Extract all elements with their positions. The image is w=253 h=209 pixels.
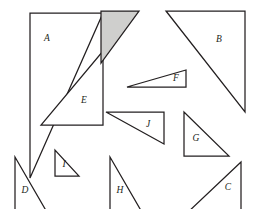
triangle-h: H: [110, 157, 143, 209]
triangle-label-d: D: [21, 185, 29, 195]
triangle-c: C: [186, 162, 241, 209]
triangle-label-h: H: [116, 185, 125, 195]
triangle-i-shape: [55, 150, 79, 176]
triangle-label-c: C: [225, 182, 232, 192]
triangle-label-g: G: [193, 133, 200, 143]
triangle-j: J: [106, 112, 164, 144]
triangle-f: F: [127, 70, 186, 87]
triangle-worksheet-canvas: AEBFJGIDHC: [0, 0, 253, 209]
triangle-j-shape: [106, 112, 164, 144]
triangle-label-e: E: [80, 95, 87, 105]
triangle-label-f: F: [172, 73, 179, 83]
triangle-c-shape: [186, 162, 241, 209]
triangle-h-shape: [110, 157, 143, 209]
triangle-label-a: A: [43, 33, 50, 43]
triangle-b-shape: [166, 11, 245, 112]
triangle-shaded-shape: [101, 11, 139, 63]
triangle-shaded: [101, 11, 139, 63]
triangle-b: B: [166, 11, 245, 112]
triangle-label-b: B: [216, 34, 222, 44]
triangle-g-shape: [184, 112, 229, 156]
triangle-g: G: [184, 112, 229, 156]
triangle-group: AEBFJGIDHC: [15, 11, 245, 209]
triangle-figure: AEBFJGIDHC: [0, 0, 253, 209]
triangle-i: I: [55, 150, 79, 176]
